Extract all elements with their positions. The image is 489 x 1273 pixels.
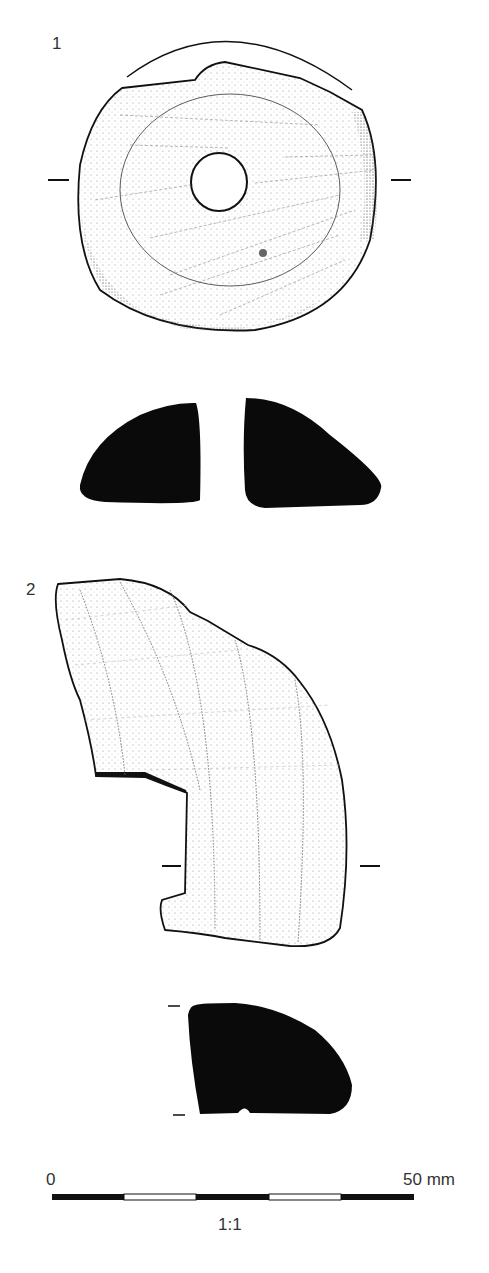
scale-segment-3: [196, 1194, 269, 1200]
object-1-section-left: [80, 403, 201, 503]
scale-start-label: 0: [46, 1170, 55, 1190]
scale-segment-5: [341, 1194, 414, 1200]
scale-segment-2: [124, 1194, 196, 1200]
object-1-central-hole: [191, 153, 247, 211]
object-1-inclusion: [259, 249, 267, 257]
artifact-drawing: [0, 0, 489, 1273]
object-1-section-view: [80, 398, 381, 508]
object-2-plan-view: [56, 579, 380, 946]
scale-segment-4: [269, 1194, 341, 1200]
object-2-section-view: [168, 1003, 352, 1115]
object-2-outline: [56, 579, 347, 946]
object-2-section: [188, 1003, 352, 1114]
object-1-section-right: [244, 398, 382, 508]
scale-bar: [52, 1194, 414, 1200]
scale-ratio-label: 1:1: [218, 1215, 242, 1235]
object-1-plan-view: [48, 41, 411, 330]
scale-segment-1: [52, 1194, 124, 1200]
scale-end-label: 50 mm: [403, 1170, 455, 1190]
